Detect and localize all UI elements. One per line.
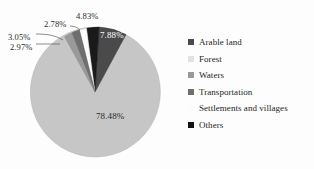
chart-legend: Arable land Forest Waters Transportation… bbox=[188, 34, 312, 133]
pie-label-transportation: 3.05% bbox=[8, 32, 30, 42]
legend-label-transportation: Transportation bbox=[199, 87, 252, 97]
legend-swatch-arable-land bbox=[188, 39, 194, 45]
pie-label-forest: 78.48% bbox=[96, 111, 124, 121]
legend-swatch-transportation bbox=[188, 89, 194, 95]
legend-swatch-others bbox=[188, 122, 194, 128]
legend-swatch-forest bbox=[188, 56, 194, 62]
legend-label-others: Others bbox=[199, 120, 223, 130]
legend-item-settlements-and-villages[interactable]: Settlements and villages bbox=[188, 100, 312, 117]
legend-label-arable-land: Arable land bbox=[199, 37, 242, 47]
legend-swatch-settlements-and-villages bbox=[188, 105, 194, 111]
legend-item-others[interactable]: Others bbox=[188, 117, 312, 134]
legend-label-waters: Waters bbox=[199, 70, 224, 80]
legend-item-waters[interactable]: Waters bbox=[188, 67, 312, 84]
pie-svg bbox=[0, 0, 190, 169]
pie-label-others: 4.83% bbox=[76, 11, 98, 21]
pie-plot-area: 7.88% 3.05% 2.97% 2.78% 4.83% 78.48% bbox=[0, 0, 190, 169]
legend-item-forest[interactable]: Forest bbox=[188, 51, 312, 68]
pie-chart-figure: 7.88% 3.05% 2.97% 2.78% 4.83% 78.48% Ara… bbox=[0, 0, 314, 169]
pie-label-arable-land: 7.88% bbox=[100, 30, 124, 40]
pie-label-settlements-and-villages: 2.78% bbox=[44, 19, 66, 29]
legend-label-settlements-and-villages: Settlements and villages bbox=[199, 103, 288, 113]
legend-item-transportation[interactable]: Transportation bbox=[188, 84, 312, 101]
legend-label-forest: Forest bbox=[199, 54, 222, 64]
legend-swatch-waters bbox=[188, 72, 194, 78]
legend-item-arable-land[interactable]: Arable land bbox=[188, 34, 312, 51]
pie-label-waters: 2.97% bbox=[10, 42, 32, 52]
